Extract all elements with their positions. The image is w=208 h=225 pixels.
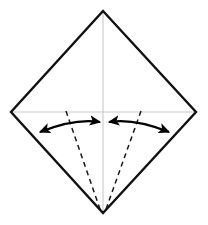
origami-diagram: [0, 0, 208, 225]
fold-diagram-svg: [0, 0, 208, 225]
